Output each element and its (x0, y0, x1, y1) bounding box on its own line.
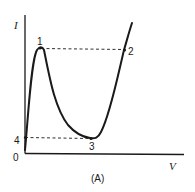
x-axis (25, 154, 184, 155)
point-1-label: 1 (37, 36, 43, 47)
dashed-line-1-2 (41, 49, 124, 50)
point-4-marker (24, 136, 27, 139)
iv-curve-diagram: I V 0 1 2 3 4 (A) (0, 0, 195, 192)
point-2-marker (123, 48, 126, 51)
y-axis-label: I (13, 19, 19, 31)
figure-caption: (A) (91, 173, 104, 184)
point-3-marker (89, 137, 92, 140)
point-2-label: 2 (128, 46, 134, 57)
point-4-label: 4 (14, 135, 20, 146)
origin-label: 0 (13, 152, 19, 163)
dashed-line-4-3 (25, 138, 90, 139)
x-axis-label: V (169, 160, 177, 172)
point-3-label: 3 (89, 141, 95, 152)
